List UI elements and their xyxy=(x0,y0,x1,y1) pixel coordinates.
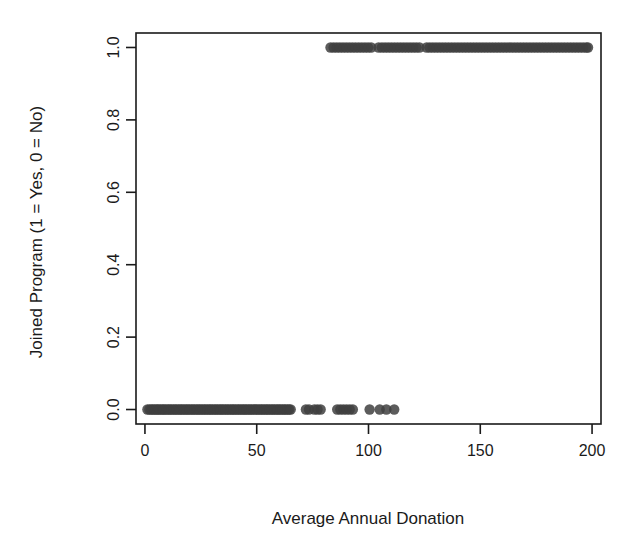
x-tick-label: 200 xyxy=(579,442,606,459)
y-axis-title: Joined Program (1 = Yes, 0 = No) xyxy=(27,106,46,358)
y-tick-label: 0.6 xyxy=(106,181,123,203)
x-tick-label: 150 xyxy=(467,442,494,459)
y-tick-label: 0.2 xyxy=(106,326,123,348)
x-tick-label: 50 xyxy=(248,442,266,459)
y-tick-label: 0.8 xyxy=(106,109,123,131)
data-point xyxy=(583,42,593,52)
y-tick-label: 0.4 xyxy=(106,253,123,275)
x-axis-title-label: Average Annual Donation xyxy=(272,509,465,528)
x-tick-label: 0 xyxy=(140,442,149,459)
y-tick-label: 1.0 xyxy=(106,36,123,58)
data-point xyxy=(389,404,399,414)
plot-canvas: Joined Program (1 = Yes, 0 = No) Average… xyxy=(0,0,644,553)
y-tick-label: 0.0 xyxy=(106,398,123,420)
data-point xyxy=(348,404,358,414)
x-axis-title: Average Annual Donation xyxy=(272,509,465,528)
data-point xyxy=(315,404,325,414)
x-tick-label: 100 xyxy=(355,442,382,459)
scatter-plot-figure: Joined Program (1 = Yes, 0 = No) Average… xyxy=(0,0,644,553)
plot-background xyxy=(0,0,644,553)
y-axis-title-label: Joined Program (1 = Yes, 0 = No) xyxy=(27,106,46,358)
data-point xyxy=(364,404,374,414)
series-joined-program-yes- xyxy=(325,42,593,52)
data-point xyxy=(286,404,296,414)
